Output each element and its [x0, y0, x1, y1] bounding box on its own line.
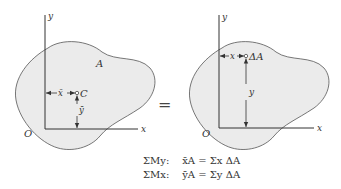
area-label: A [95, 58, 103, 69]
equation-head: ΣMx: [143, 169, 179, 180]
origin-label: O [202, 128, 210, 139]
left-diagram: y x O A C x̄ ȳ [15, 11, 155, 150]
centroid-point [75, 91, 78, 94]
y-axis-label: y [47, 11, 54, 21]
x-axis-label: x [141, 124, 146, 134]
element-label: ΔA [248, 51, 263, 62]
y-distance-label: y [248, 87, 255, 97]
x-axis-label: x [317, 123, 322, 133]
centroid-label: C [80, 88, 88, 99]
equals-sign: = [158, 95, 171, 114]
ybar-label: ȳ [78, 105, 84, 115]
equation-body: x̄A = Σx ΔA [182, 155, 240, 166]
element-point [244, 54, 247, 57]
equation-head: ΣMy: [143, 155, 179, 166]
xbar-label: x̄ [58, 88, 63, 98]
origin-label: O [24, 128, 32, 139]
equation-moment-x: ΣMx: ȳA = Σy ΔA [143, 169, 240, 180]
equation-moment-y: ΣMy: x̄A = Σx ΔA [143, 155, 240, 166]
x-distance-label: x [230, 51, 235, 61]
y-axis-label: y [221, 12, 228, 22]
right-diagram: y x O ΔA x y [189, 12, 329, 150]
equation-body: ȳA = Σy ΔA [182, 169, 240, 180]
